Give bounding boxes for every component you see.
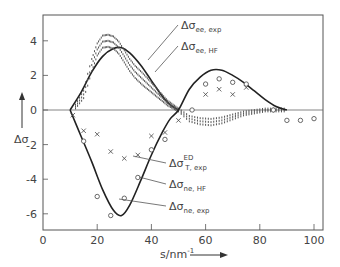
legend-annotations: Δσee, expΔσee, HFΔσEDT, expΔσne, HFΔσne,…	[119, 19, 222, 215]
data-point-circle	[149, 148, 153, 152]
data-point-circle	[312, 116, 316, 120]
data-point-circle	[190, 108, 194, 112]
legend-ee-hf: Δσee, HF	[181, 40, 218, 55]
data-point-circle	[163, 137, 167, 141]
data-point-cross	[109, 149, 113, 153]
y-axis-label: Δσ	[14, 133, 29, 146]
data-point-circle	[81, 139, 85, 143]
data-point-circle	[271, 108, 275, 112]
x-tick-label: 100	[304, 234, 325, 247]
y-tick-label: 4	[30, 35, 37, 48]
data-point-cross	[231, 92, 235, 96]
data-point-circle	[285, 118, 289, 122]
data-point-cross	[149, 134, 153, 138]
y-tick-label: -4	[26, 173, 37, 186]
data-point-cross	[122, 156, 126, 160]
data-point-cross	[217, 87, 221, 91]
axis-ticks: 020406080100-6-4-2024	[26, 35, 324, 247]
y-axis-arrowhead-icon	[19, 92, 25, 100]
y-tick-label: 0	[30, 104, 37, 117]
x-tick-label: 40	[144, 234, 158, 247]
data-point-circle	[298, 118, 302, 122]
series-solid-line	[70, 69, 287, 215]
chart-canvas: 020406080100-6-4-2024 Δσee, expΔσee, HFΔ…	[0, 0, 340, 267]
data-point-circle	[109, 213, 113, 217]
x-tick-label: 60	[199, 234, 213, 247]
data-point-cross	[81, 129, 85, 133]
x-tick-label: 0	[40, 234, 47, 247]
data-point-circle	[203, 82, 207, 86]
legend-ne-hf: Δσne, HF	[169, 178, 206, 193]
data-point-cross	[95, 132, 99, 136]
data-point-circle	[231, 80, 235, 84]
y-tick-label: 2	[30, 69, 37, 82]
data-point-circle	[217, 77, 221, 81]
y-tick-label: -6	[26, 208, 37, 221]
data-point-circle	[95, 194, 99, 198]
data-point-cross	[176, 118, 180, 122]
x-axis-arrowhead-icon	[220, 252, 228, 258]
legend-t-exp-ed: ΔσEDT, exp	[169, 154, 207, 172]
x-tick-label: 20	[90, 234, 104, 247]
series-dotted-band	[75, 34, 285, 127]
data-point-cross	[163, 130, 167, 134]
legend-ne-exp: Δσne, exp	[169, 200, 210, 215]
series-circles	[81, 77, 316, 218]
data-point-cross	[203, 92, 207, 96]
legend-ee-exp: Δσee, exp	[181, 19, 222, 34]
x-tick-label: 80	[253, 234, 267, 247]
x-axis-label: s/nm-1	[160, 247, 194, 261]
